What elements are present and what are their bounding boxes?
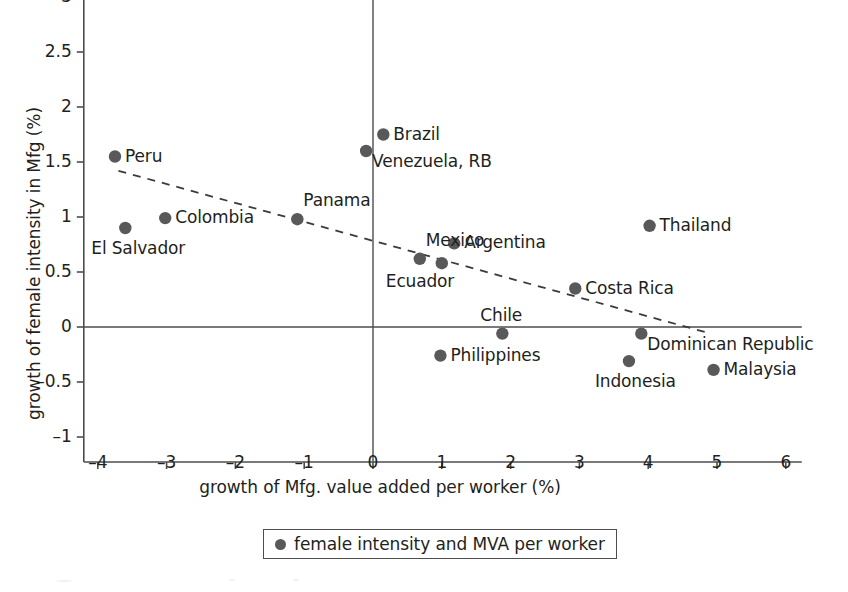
point-label-panama: Panama xyxy=(303,190,370,210)
x-tick-label: 1 xyxy=(422,452,462,472)
x-tick-label: 5 xyxy=(697,452,737,472)
y-tick-label: 1.5 xyxy=(26,151,72,171)
data-point-peru xyxy=(109,150,121,162)
point-label-thailand: Thailand xyxy=(660,215,732,235)
legend-entry-label: female intensity and MVA per worker xyxy=(294,534,605,554)
data-point-philippines xyxy=(434,349,446,361)
x-tick-label: –2 xyxy=(215,452,255,472)
y-tick-label: 0.5 xyxy=(26,261,72,281)
x-tick-label: –3 xyxy=(147,452,187,472)
point-label-colombia: Colombia xyxy=(175,207,254,227)
scatter-chart-figure: growth of Mfg. value added per worker (%… xyxy=(0,0,848,592)
point-label-chile: Chile xyxy=(480,305,522,325)
legend-marker-icon xyxy=(275,539,286,550)
chart-legend: female intensity and MVA per worker xyxy=(263,529,617,559)
data-point-indonesia xyxy=(623,355,635,367)
point-label-philippines: Philippines xyxy=(450,345,540,365)
data-point-malaysia xyxy=(707,364,719,376)
y-tick-label: 1 xyxy=(26,206,72,226)
x-tick-label: 4 xyxy=(628,452,668,472)
data-point-venezuela-rb xyxy=(360,145,372,157)
x-tick-label: 3 xyxy=(559,452,599,472)
point-label-brazil: Brazil xyxy=(393,124,440,144)
x-tick-label: 0 xyxy=(353,452,393,472)
y-tick-label: 2 xyxy=(26,96,72,116)
data-point-colombia xyxy=(159,212,171,224)
data-point-chile xyxy=(496,327,508,339)
data-point-ecuador xyxy=(436,257,448,269)
data-point-brazil xyxy=(377,128,389,140)
y-tick-label: 3 xyxy=(26,0,72,6)
data-point-costa-rica xyxy=(569,282,581,294)
y-tick-label: 2.5 xyxy=(26,41,72,61)
point-label-venezuela-rb: Venezuela, RB xyxy=(372,151,492,171)
y-tick-label: 0 xyxy=(26,316,72,336)
data-point-thailand xyxy=(643,220,655,232)
point-label-el-salvador: El Salvador xyxy=(91,238,185,258)
point-label-malaysia: Malaysia xyxy=(724,359,797,379)
y-tick-label: –0.5 xyxy=(26,371,72,391)
data-point-panama xyxy=(291,213,303,225)
x-tick-label: –4 xyxy=(78,452,118,472)
x-tick-label: 2 xyxy=(491,452,531,472)
point-label-ecuador: Ecuador xyxy=(386,271,454,291)
data-point-mexico xyxy=(414,253,426,265)
point-label-costa-rica: Costa Rica xyxy=(585,278,673,298)
x-tick-label: 6 xyxy=(766,452,806,472)
y-tick-label: –1 xyxy=(26,426,72,446)
plot-area xyxy=(0,0,848,592)
x-tick-label: –1 xyxy=(284,452,324,472)
data-point-el-salvador xyxy=(119,222,131,234)
point-label-peru: Peru xyxy=(125,146,162,166)
x-axis-label: growth of Mfg. value added per worker (%… xyxy=(0,477,760,497)
point-label-dominican-republic: Dominican Republic xyxy=(647,334,813,354)
point-label-argentina: Argentina xyxy=(464,232,546,252)
data-point-dominican-republic xyxy=(635,327,647,339)
point-label-indonesia: Indonesia xyxy=(595,371,676,391)
